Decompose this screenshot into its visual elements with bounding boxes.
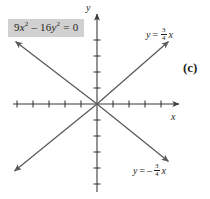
negative-line-equals: = [139, 166, 145, 176]
y-axis-label: y [86, 3, 90, 13]
equation-operator: – [31, 21, 37, 33]
equation-coefficient-y: 16 [40, 21, 51, 33]
positive-line-denominator: 4 [161, 35, 167, 42]
negative-line-sign: – [147, 166, 152, 176]
equation-exponent-x: 2 [25, 20, 29, 28]
positive-line-equation-label: y = 3 4 x [146, 27, 173, 43]
equation-exponent-y: 2 [57, 20, 61, 28]
positive-line-variable: x [169, 30, 173, 40]
equation-equals: = [63, 21, 69, 33]
graph-figure: 9x2 – 16y2 = 0 y x y = 3 4 x y = – 3 4 x… [0, 0, 210, 199]
equation-right-side: 0 [73, 21, 79, 33]
equation-label: 9x2 – 16y2 = 0 [8, 19, 84, 37]
negative-line-equation-label: y = – 3 4 x [133, 163, 166, 179]
negative-line-lhs: y [133, 166, 137, 176]
positive-line-fraction: 3 4 [161, 27, 167, 43]
negative-line-fraction: 3 4 [154, 163, 160, 179]
x-axis-label: x [171, 112, 175, 122]
y-axis [94, 14, 101, 192]
positive-line-numerator: 3 [161, 27, 167, 34]
panel-letter: (c) [183, 61, 197, 74]
positive-line-lhs: y [146, 30, 150, 40]
negative-line-numerator: 3 [154, 163, 160, 170]
negative-line-denominator: 4 [154, 171, 160, 178]
negative-line-variable: x [162, 166, 166, 176]
positive-line-equals: = [152, 30, 158, 40]
